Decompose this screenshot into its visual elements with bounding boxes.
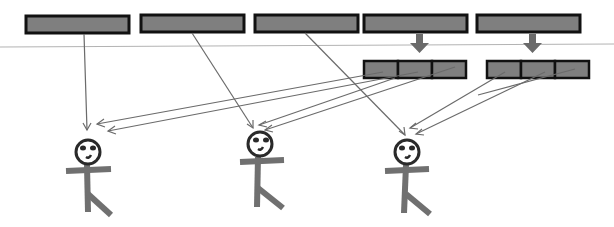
segment xyxy=(487,61,521,78)
top-block-5 xyxy=(477,15,580,32)
top-block-3 xyxy=(255,15,358,32)
segment xyxy=(398,61,432,78)
top-blocks xyxy=(26,15,580,33)
head xyxy=(395,140,419,164)
head xyxy=(76,140,100,164)
segment xyxy=(364,61,398,78)
distribution-diagram xyxy=(0,0,614,227)
person-1 xyxy=(66,140,111,215)
top-block-1 xyxy=(26,16,129,33)
top-block-2 xyxy=(141,15,244,32)
person-3 xyxy=(385,140,430,214)
head xyxy=(248,132,272,156)
down-arrow-icon xyxy=(410,34,429,53)
connectors xyxy=(83,33,575,135)
top-block-4 xyxy=(364,15,467,32)
split-arrows xyxy=(410,34,542,53)
horizontal-divider xyxy=(0,44,614,47)
down-arrow-icon xyxy=(523,34,542,53)
split-group-1 xyxy=(364,61,466,78)
person-2 xyxy=(240,132,284,208)
